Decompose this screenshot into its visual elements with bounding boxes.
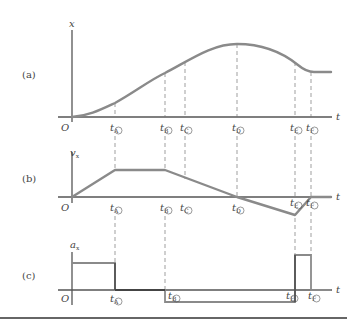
panel-a: (a) x t O tA tB tC tD tE tF xyxy=(22,18,341,134)
panel-a-label: (a) xyxy=(22,69,36,80)
svg-text:tB: tB xyxy=(160,202,169,214)
panel-c-t-label: t xyxy=(336,284,341,295)
svg-text:tD: tD xyxy=(232,202,241,214)
svg-text:tA: tA xyxy=(110,293,119,305)
connectors-b-c xyxy=(115,212,311,290)
panel-c: (c) ax t O tA tB tE tF xyxy=(22,239,341,305)
panel-a-position-curve xyxy=(72,44,331,117)
panel-c-label: (c) xyxy=(22,270,36,281)
panel-a-time-labels: tA tB tC tD tE tF xyxy=(110,122,318,134)
svg-text:tB: tB xyxy=(160,122,169,134)
panel-c-y-label: ax xyxy=(70,239,80,251)
panel-b-origin: O xyxy=(61,202,69,213)
svg-text:tC: tC xyxy=(180,122,189,134)
motion-graphs-figure: (a) x t O tA tB tC tD tE tF xyxy=(0,0,360,328)
svg-text:tA: tA xyxy=(110,202,119,214)
svg-text:tF: tF xyxy=(308,290,316,302)
svg-text:tE: tE xyxy=(290,122,298,134)
svg-text:tE: tE xyxy=(290,197,298,209)
svg-text:tA: tA xyxy=(110,122,119,134)
panel-b-label: (b) xyxy=(22,173,36,184)
svg-text:tB: tB xyxy=(168,290,177,302)
svg-text:tC: tC xyxy=(180,202,189,214)
panel-a-t-label: t xyxy=(336,111,341,122)
panel-a-origin: O xyxy=(61,122,69,133)
panel-b: (b) vx t O tA tB tC tD tE tF xyxy=(22,147,341,215)
svg-text:tD: tD xyxy=(232,122,241,134)
panel-c-origin: O xyxy=(61,293,69,304)
svg-text:tF: tF xyxy=(306,122,314,134)
panel-a-y-label: x xyxy=(69,18,75,29)
panel-b-t-label: t xyxy=(336,191,341,202)
panel-b-y-label: vx xyxy=(70,147,80,159)
svg-text:tE: tE xyxy=(286,290,294,302)
